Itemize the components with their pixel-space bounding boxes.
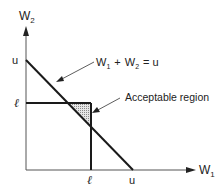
region-pointer (92, 98, 120, 113)
x-tick-l: ℓ (87, 173, 92, 187)
x-axis (26, 167, 196, 173)
x-axis-label: W1 (199, 163, 215, 179)
x-axis-arrow-icon (186, 167, 196, 173)
y-axis-label: W2 (19, 9, 35, 25)
y-tick-l: ℓ (14, 96, 19, 110)
constraint-pointer (56, 62, 94, 82)
constraint-line (26, 60, 133, 170)
acceptable-region-label: Acceptable region (125, 91, 209, 103)
x-tick-u: u (129, 174, 135, 186)
constraint-equation-label: W1+W2= u (96, 56, 159, 70)
y-axis (23, 26, 29, 170)
y-tick-u: u (12, 54, 18, 66)
pointer-arrowhead-icon (56, 76, 64, 82)
budget-constraint-diagram: W2 u ℓ W1 ℓ u W1+W2= u Acceptable region (0, 0, 220, 191)
y-axis-arrow-icon (23, 26, 29, 36)
region-pointer-arrowhead-icon (92, 107, 100, 113)
